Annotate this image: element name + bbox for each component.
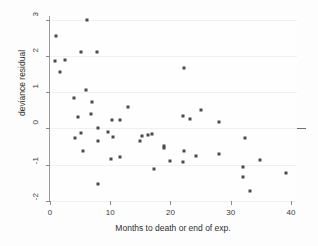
data-point (64, 58, 67, 61)
x-axis-title: Months to death or end of exp. (49, 223, 297, 233)
y-axis-tick-label: 1 (32, 84, 40, 100)
data-point (152, 168, 155, 171)
gridline (50, 92, 297, 93)
x-axis-tick-label: 20 (158, 208, 182, 217)
y-axis-tick-label: 3 (32, 12, 40, 28)
y-axis-tick (46, 128, 50, 129)
data-point (242, 166, 245, 169)
y-axis-tick-label: 2 (32, 48, 40, 64)
data-point (95, 51, 98, 54)
y-axis-tick-label: -1 (32, 157, 40, 173)
data-point (111, 135, 114, 138)
data-point (241, 176, 244, 179)
data-point (111, 119, 114, 122)
y-axis-tick (46, 165, 50, 166)
data-point (76, 115, 79, 118)
data-point (284, 172, 287, 175)
data-point (96, 140, 99, 143)
data-point (90, 100, 93, 103)
x-axis-tick-label: 10 (98, 208, 122, 217)
data-point (55, 34, 58, 37)
data-point (89, 113, 92, 116)
x-axis-tick-label: 40 (279, 208, 303, 217)
data-point (182, 114, 185, 117)
data-point (147, 133, 150, 136)
x-axis-tick (231, 201, 232, 205)
y-axis-title: deviance residual (17, 23, 27, 143)
gridline (50, 56, 297, 57)
data-point (195, 154, 198, 157)
data-point (85, 18, 88, 21)
data-point (139, 140, 142, 143)
data-point (200, 108, 203, 111)
data-point (54, 59, 57, 62)
data-point (151, 132, 154, 135)
gridline (50, 165, 297, 166)
data-point (183, 150, 186, 153)
data-point (244, 136, 247, 139)
data-point (126, 106, 129, 109)
data-point (79, 132, 82, 135)
data-point (106, 131, 109, 134)
data-point (73, 96, 76, 99)
data-point (183, 66, 186, 69)
scatter-plot-figure: -2-10123010203040 deviance residual Mont… (0, 0, 318, 246)
data-point (81, 149, 84, 152)
y-axis-tick-label: -2 (32, 193, 40, 209)
x-axis-tick-label: 0 (38, 208, 62, 217)
data-point (80, 50, 83, 53)
data-point (259, 159, 262, 162)
data-point (218, 120, 221, 123)
x-axis-tick (291, 201, 292, 205)
data-point (169, 160, 172, 163)
x-axis-tick (50, 201, 51, 205)
plot-area: -2-10123010203040 (49, 16, 297, 202)
data-point (97, 127, 100, 130)
data-point (163, 147, 166, 150)
data-point (218, 152, 221, 155)
y-axis-tick (46, 20, 50, 21)
gridline (50, 128, 297, 129)
x-axis-tick-label: 30 (219, 208, 243, 217)
data-point (140, 135, 143, 138)
data-point (73, 136, 76, 139)
y-axis-tick (46, 56, 50, 57)
x-axis-tick (170, 201, 171, 205)
data-point (118, 156, 121, 159)
data-point (249, 189, 252, 192)
x-axis-tick (110, 201, 111, 205)
data-point (59, 71, 62, 74)
y-axis-tick-label: 0 (32, 120, 40, 136)
data-point (110, 158, 113, 161)
y-axis-tick (46, 92, 50, 93)
data-point (118, 119, 121, 122)
data-point (84, 89, 87, 92)
data-point (97, 182, 100, 185)
gridline (50, 201, 297, 202)
data-point (189, 118, 192, 121)
data-point (181, 160, 184, 163)
